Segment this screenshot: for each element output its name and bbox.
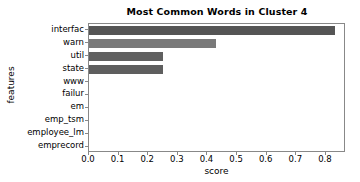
x-tick-mark-0.8: [325, 152, 326, 155]
bar-chart-figure: Most Common Words in Cluster 4 features …: [0, 0, 360, 182]
x-tick-label-0.2: 0.2: [140, 154, 154, 164]
bar-emprecord: [89, 142, 344, 151]
bar-fill-interfac: [89, 26, 335, 35]
y-tick-label-employee_lm: employee_lm: [27, 128, 84, 137]
y-tick-label-emprecord: emprecord: [38, 141, 84, 150]
x-tick-mark-0.5: [236, 152, 237, 155]
y-tick-label-util: util: [71, 51, 84, 60]
y-tick-label-state: state: [62, 64, 84, 73]
bar-em: [89, 103, 344, 112]
x-tick-mark-0.7: [295, 152, 296, 155]
y-tick-label-interfac: interfac: [51, 25, 84, 34]
y-tick-mark-emp_tsm: [85, 120, 88, 121]
y-tick-mark-em: [85, 107, 88, 108]
chart-title: Most Common Words in Cluster 4: [88, 6, 346, 17]
bar-fill-warn: [89, 39, 216, 48]
y-tick-mark-interfac: [85, 29, 88, 30]
x-tick-label-0.3: 0.3: [170, 154, 184, 164]
y-tick-mark-failur: [85, 94, 88, 95]
y-tick-mark-util: [85, 55, 88, 56]
y-tick-label-em: em: [70, 102, 84, 111]
x-axis-title: score: [88, 166, 345, 176]
x-tick-mark-0.3: [177, 152, 178, 155]
x-tick-mark-0.1: [118, 152, 119, 155]
x-tick-label-0.1: 0.1: [111, 154, 125, 164]
y-tick-mark-emprecord: [85, 146, 88, 147]
x-tick-label-0.7: 0.7: [289, 154, 303, 164]
y-tick-mark-www: [85, 81, 88, 82]
bar-state: [89, 65, 344, 74]
plot-area: [88, 23, 345, 152]
x-tick-mark-0.6: [266, 152, 267, 155]
bar-www: [89, 78, 344, 87]
bar-fill-util: [89, 52, 163, 61]
x-tick-label-0.6: 0.6: [259, 154, 273, 164]
bar-employee_lm: [89, 129, 344, 138]
y-tick-label-emp_tsm: emp_tsm: [45, 115, 84, 124]
bar-failur: [89, 90, 344, 99]
bar-util: [89, 52, 344, 61]
y-tick-mark-warn: [85, 42, 88, 43]
x-tick-label-0.8: 0.8: [318, 154, 332, 164]
y-axis-tick-labels: interfacwarnutilstatewwwfailurememp_tsme…: [0, 23, 84, 152]
y-tick-label-failur: failur: [62, 89, 84, 98]
y-tick-mark-state: [85, 68, 88, 69]
x-tick-mark-0.0: [88, 152, 89, 155]
bar-emp_tsm: [89, 116, 344, 125]
y-tick-mark-employee_lm: [85, 133, 88, 134]
bar-interfac: [89, 26, 344, 35]
bar-fill-state: [89, 65, 163, 74]
y-tick-label-www: www: [63, 77, 84, 86]
x-tick-label-0.5: 0.5: [229, 154, 243, 164]
x-tick-label-0.0: 0.0: [81, 154, 95, 164]
x-tick-mark-0.4: [206, 152, 207, 155]
y-tick-label-warn: warn: [63, 38, 84, 47]
x-tick-mark-0.2: [147, 152, 148, 155]
x-tick-label-0.4: 0.4: [200, 154, 214, 164]
bars-layer: [89, 24, 344, 151]
bar-warn: [89, 39, 344, 48]
x-axis-tick-labels: 0.00.10.20.30.40.50.60.70.8: [88, 154, 345, 166]
